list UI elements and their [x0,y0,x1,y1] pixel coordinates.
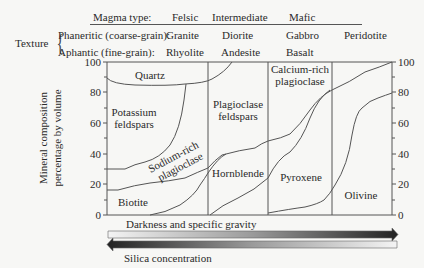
svg-text:80: 80 [398,86,410,98]
curve-quartz [107,62,232,85]
svg-text:0: 0 [96,209,102,221]
mineral-composition-diagram: 100 80 60 40 20 0 100 80 60 40 20 0 Quar… [0,0,424,268]
label-calcium-2: plagioclase [275,75,325,87]
label-calcium-1: Calcium-rich [271,63,330,75]
label-plagioclase-1: Plagioclase [213,98,263,110]
label-silica: Silica concentration [124,252,212,264]
label-plagioclase-2: feldspars [218,110,258,122]
silica-arrow [107,238,397,251]
label-darkness: Darkness and specific gravity [126,218,257,230]
svg-text:40: 40 [90,148,102,160]
svg-text:100: 100 [398,56,415,68]
svg-text:80: 80 [90,86,102,98]
label-olivine: Olivine [345,189,378,201]
svg-text:100: 100 [85,56,102,68]
label-hornblende: Hornblende [212,167,264,179]
svg-text:40: 40 [398,148,410,160]
svg-text:60: 60 [398,117,410,129]
label-potassium-1: Potassium [111,106,157,118]
right-tick-labels: 100 80 60 40 20 0 [398,56,415,221]
svg-text:0: 0 [398,209,404,221]
label-biotite: Biotite [118,196,148,208]
left-ticks [103,62,107,215]
label-quartz: Quartz [135,69,165,81]
label-potassium-2: feldspars [114,118,154,130]
svg-text:20: 20 [398,178,410,190]
svg-text:20: 20 [90,178,102,190]
left-tick-labels: 100 80 60 40 20 0 [85,56,102,221]
svg-text:60: 60 [90,117,102,129]
right-ticks [392,62,396,215]
label-pyroxene: Pyroxene [280,171,322,183]
